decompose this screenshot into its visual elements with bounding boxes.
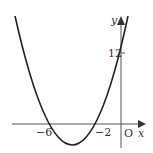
y-axis-arrow-icon: [117, 16, 125, 25]
x-tick-label-neg6: −6: [36, 126, 52, 139]
x-tick-label-neg2: −2: [95, 126, 111, 139]
origin-label: O: [124, 127, 133, 140]
y-tick-label-12: 12: [108, 47, 122, 60]
x-axis-label: x: [138, 127, 145, 140]
y-axis-label: y: [110, 14, 118, 27]
parabola-chart: y 12 −6 −2 O x: [0, 0, 153, 153]
